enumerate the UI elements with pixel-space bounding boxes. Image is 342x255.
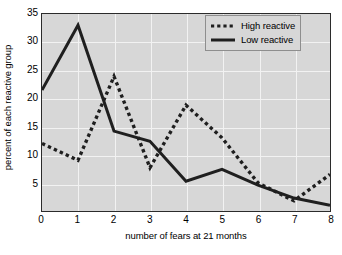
- x-tick-label: 2: [104, 214, 124, 226]
- x-axis-title: number of fears at 21 months: [41, 230, 331, 241]
- y-axis-title-text: percent of each reactive group: [3, 45, 14, 170]
- x-tick-label: 1: [67, 214, 87, 226]
- series-line-low-reactive: [42, 25, 330, 205]
- chart-legend: High reactive Low reactive: [205, 15, 301, 51]
- y-tick-label: 15: [16, 122, 38, 132]
- y-tick-label: 25: [16, 65, 38, 75]
- x-tick-label: 6: [249, 214, 269, 226]
- x-axis-tick-labels: 012345678: [41, 214, 331, 228]
- x-tick-label: 7: [285, 214, 305, 226]
- solid-line-icon: [210, 35, 236, 45]
- x-tick-label: 4: [176, 214, 196, 226]
- chart-figure: percent of each reactive group 510152025…: [0, 0, 342, 255]
- y-tick-label: 20: [16, 93, 38, 103]
- x-tick-label: 3: [140, 214, 160, 226]
- y-tick-label: 30: [16, 36, 38, 46]
- y-tick-label: 5: [16, 179, 38, 189]
- y-tick-label: 35: [16, 8, 38, 18]
- dotted-line-icon: [210, 21, 236, 31]
- legend-item-high-reactive: High reactive: [210, 19, 295, 33]
- legend-label-low-reactive: Low reactive: [241, 35, 293, 45]
- legend-label-high-reactive: High reactive: [241, 21, 295, 31]
- y-tick-label: 10: [16, 150, 38, 160]
- x-tick-label: 8: [321, 214, 341, 226]
- x-tick-label: 0: [31, 214, 51, 226]
- legend-item-low-reactive: Low reactive: [210, 33, 295, 47]
- x-tick-label: 5: [212, 214, 232, 226]
